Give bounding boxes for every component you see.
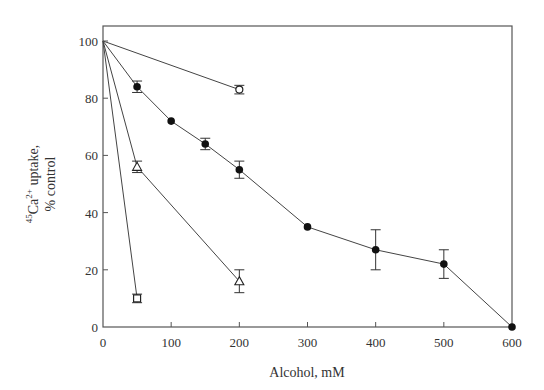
data-point xyxy=(440,260,448,268)
y-axis-title-line2: % control xyxy=(43,156,58,211)
data-point xyxy=(167,117,175,125)
chart-plot: 0100200300400500600020406080100 Alcohol,… xyxy=(0,0,544,390)
data-point xyxy=(133,83,141,91)
data-point xyxy=(201,140,209,148)
axis-ticks: 0100200300400500600020406080100 xyxy=(79,34,522,350)
y-axis-title: 45Ca2+ uptake, % control xyxy=(24,145,58,223)
data-point xyxy=(236,86,243,93)
x-axis-title: Alcohol, mM xyxy=(269,365,345,380)
y-axis-title-line1: 45Ca2+ uptake, xyxy=(24,145,41,223)
data-point xyxy=(372,246,380,254)
x-tick-label: 500 xyxy=(434,335,454,350)
series-layer xyxy=(103,41,516,331)
y-tick-label: 100 xyxy=(79,34,99,49)
x-tick-label: 0 xyxy=(100,335,107,350)
series-open-square xyxy=(103,41,142,303)
y-tick-label: 60 xyxy=(85,148,98,163)
x-tick-label: 400 xyxy=(366,335,386,350)
data-point xyxy=(236,166,244,174)
series-open-triangle xyxy=(103,41,244,293)
series-filled-circle xyxy=(103,41,516,331)
data-point xyxy=(304,223,312,231)
x-tick-label: 100 xyxy=(161,335,181,350)
y-tick-label: 0 xyxy=(92,320,99,335)
plot-frame xyxy=(103,26,512,327)
x-tick-label: 300 xyxy=(298,335,318,350)
data-point xyxy=(508,323,516,331)
axes-box xyxy=(103,26,512,327)
data-point xyxy=(134,295,141,302)
y-tick-label: 80 xyxy=(85,91,98,106)
y-tick-label: 40 xyxy=(85,206,98,221)
x-tick-label: 600 xyxy=(502,335,522,350)
x-tick-label: 200 xyxy=(230,335,250,350)
data-point xyxy=(133,162,142,170)
series-open-circle xyxy=(103,41,244,94)
y-tick-label: 20 xyxy=(85,263,98,278)
